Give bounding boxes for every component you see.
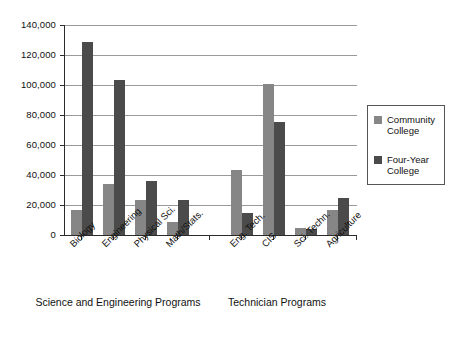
bar-chart: 140,000 120,000 100,000 80,000 60,000 40… <box>0 0 461 343</box>
x-axis-labels: BiologyEngineeringPhysical Sci.Math/Stat… <box>64 240 364 288</box>
plot-area <box>64 25 357 235</box>
y-axis-tick-label: 20,000 <box>0 200 56 210</box>
group-label-science-engineering: Science and Engineering Programs <box>33 296 203 309</box>
bar-series-container <box>64 25 357 235</box>
bar <box>231 170 242 235</box>
bar <box>274 122 285 235</box>
y-axis-tick-label: 100,000 <box>0 80 56 90</box>
legend-label: Four-Year College <box>387 154 429 176</box>
bar <box>82 42 93 236</box>
y-axis-tick-label: 60,000 <box>0 140 56 150</box>
bar <box>263 84 274 235</box>
legend-item-four-year-college: Four-Year College <box>374 154 429 176</box>
legend-label: Community College <box>387 114 435 136</box>
legend-item-community-college: Community College <box>374 114 435 136</box>
y-axis-tick-label: 0 <box>0 230 56 240</box>
y-axis-tick-label: 40,000 <box>0 170 56 180</box>
y-axis-tick-label: 140,000 <box>0 20 56 30</box>
bar <box>114 80 125 235</box>
legend-swatch-icon <box>374 156 382 164</box>
y-axis-tick-label: 120,000 <box>0 50 56 60</box>
legend-swatch-icon <box>374 116 382 124</box>
legend: Community College Four-Year College <box>367 105 445 185</box>
y-axis-tick-label: 80,000 <box>0 110 56 120</box>
group-label-technician: Technician Programs <box>222 296 332 309</box>
